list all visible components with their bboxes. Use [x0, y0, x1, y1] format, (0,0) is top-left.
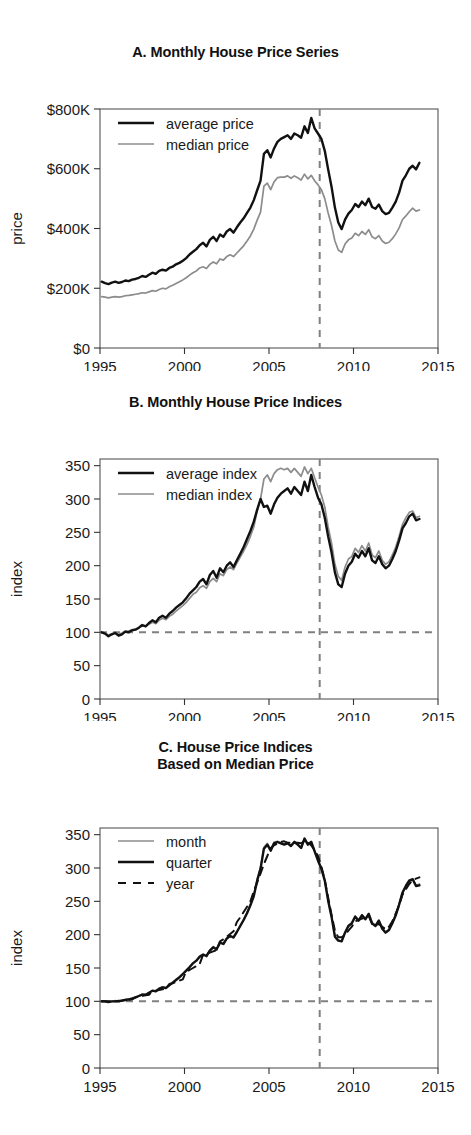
- y-tick-label: 150: [65, 591, 90, 608]
- x-tick-label: 2000: [168, 358, 201, 371]
- y-tick-label: $200K: [47, 280, 90, 297]
- y-tick-label: 300: [65, 860, 90, 877]
- panel-a-svg: $0$200K$400K$600K$800K199520002005201020…: [0, 61, 471, 371]
- y-axis-title: index: [8, 561, 25, 597]
- x-tick-label: 2010: [337, 1078, 370, 1093]
- legend-label-median-price: median price: [166, 137, 249, 153]
- legend-label-month: month: [166, 834, 206, 850]
- series-line-average-price: [102, 118, 420, 284]
- x-tick-label: 1995: [83, 709, 116, 721]
- panel-a-plot: $0$200K$400K$600K$800K199520002005201020…: [0, 61, 471, 371]
- series-line-median-index: [102, 467, 420, 635]
- x-tick-label: 2000: [168, 1078, 201, 1093]
- y-axis-title: price: [8, 212, 25, 245]
- y-tick-label: 100: [65, 993, 90, 1010]
- panel-c-svg: 0501001502002503003501995200020052010201…: [0, 773, 471, 1093]
- legend-label-average-index: average index: [166, 466, 258, 482]
- y-tick-label: $800K: [47, 101, 90, 118]
- panel-c-plot: 0501001502002503003501995200020052010201…: [0, 773, 471, 1093]
- y-tick-label: 0: [82, 691, 90, 708]
- legend-label-average-price: average price: [166, 116, 254, 132]
- plot-frame: [100, 459, 438, 699]
- legend-label-year: year: [166, 876, 194, 892]
- x-tick-label: 2000: [168, 709, 201, 721]
- y-tick-label: $600K: [47, 160, 90, 177]
- y-tick-label: 250: [65, 524, 90, 541]
- panel-c-title-line1: C. House Price Indices: [0, 735, 471, 756]
- plot-frame: [100, 109, 438, 348]
- panel-b: B. Monthly House Price Indices 050100150…: [0, 390, 471, 730]
- house-price-figure: A. Monthly House Price Series $0$200K$40…: [0, 0, 471, 1135]
- panel-b-svg: 0501001502002503003501995200020052010201…: [0, 411, 471, 721]
- panel-a: A. Monthly House Price Series $0$200K$40…: [0, 40, 471, 380]
- y-tick-label: 50: [73, 657, 90, 674]
- y-tick-label: 300: [65, 491, 90, 508]
- y-tick-label: 0: [82, 1060, 90, 1077]
- series-line-median-price: [102, 174, 420, 298]
- x-tick-label: 2015: [421, 709, 454, 721]
- series-group: [102, 467, 420, 636]
- y-tick-label: 200: [65, 926, 90, 943]
- y-tick-label: $400K: [47, 220, 90, 237]
- y-tick-label: 200: [65, 557, 90, 574]
- x-tick-label: 2010: [337, 709, 370, 721]
- x-tick-label: 2010: [337, 358, 370, 371]
- y-tick-label: 100: [65, 624, 90, 641]
- y-tick-label: 250: [65, 893, 90, 910]
- y-tick-label: 150: [65, 960, 90, 977]
- y-tick-label: 350: [65, 826, 90, 843]
- y-tick-label: $0: [73, 340, 90, 357]
- legend-label-quarter: quarter: [166, 855, 212, 871]
- x-tick-label: 2015: [421, 1078, 454, 1093]
- plot-frame: [100, 828, 438, 1068]
- series-line-average-index: [102, 475, 420, 636]
- x-tick-label: 2015: [421, 358, 454, 371]
- x-tick-label: 1995: [83, 358, 116, 371]
- panel-b-title: B. Monthly House Price Indices: [0, 390, 471, 411]
- panel-a-title: A. Monthly House Price Series: [0, 40, 471, 61]
- x-tick-label: 2005: [252, 709, 285, 721]
- series-group: [102, 118, 420, 298]
- legend-label-median-index: median index: [166, 487, 253, 503]
- x-tick-label: 1995: [83, 1078, 116, 1093]
- y-tick-label: 50: [73, 1026, 90, 1043]
- x-tick-label: 2005: [252, 358, 285, 371]
- panel-c-title-line2: Based on Median Price: [0, 756, 471, 773]
- y-tick-label: 350: [65, 457, 90, 474]
- x-tick-label: 2005: [252, 1078, 285, 1093]
- panel-c: C. House Price Indices Based on Median P…: [0, 735, 471, 1135]
- y-axis-title: index: [8, 930, 25, 966]
- panel-b-plot: 0501001502002503003501995200020052010201…: [0, 411, 471, 721]
